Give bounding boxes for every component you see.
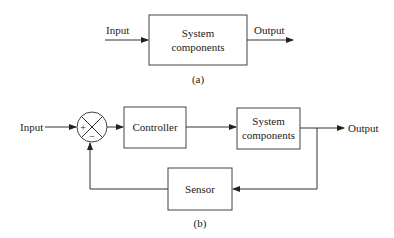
caption-b: (b) bbox=[194, 217, 207, 230]
closed-loop-diagram: Input + − Controller System components O… bbox=[20, 107, 379, 230]
sensor-label: Sensor bbox=[185, 183, 215, 195]
system-label-b-line1: System bbox=[252, 115, 285, 127]
minus-sign: − bbox=[89, 131, 95, 142]
feedback-to-junction-line bbox=[90, 143, 168, 189]
system-label-a-line2: components bbox=[171, 41, 224, 53]
open-loop-diagram: Input System components Output (a) bbox=[105, 15, 293, 86]
block-diagrams: Input System components Output (a) Input… bbox=[0, 0, 394, 238]
input-label-b: Input bbox=[20, 121, 43, 133]
plus-sign: + bbox=[80, 122, 86, 133]
system-label-a-line1: System bbox=[182, 27, 215, 39]
summing-junction: + − bbox=[77, 112, 107, 142]
caption-a: (a) bbox=[192, 73, 205, 86]
input-label-a: Input bbox=[106, 24, 129, 36]
controller-label: Controller bbox=[132, 121, 178, 133]
output-label-a: Output bbox=[254, 24, 285, 36]
system-components-block-a bbox=[149, 15, 247, 65]
system-label-b-line2: components bbox=[242, 129, 295, 141]
output-label-b: Output bbox=[348, 122, 379, 134]
